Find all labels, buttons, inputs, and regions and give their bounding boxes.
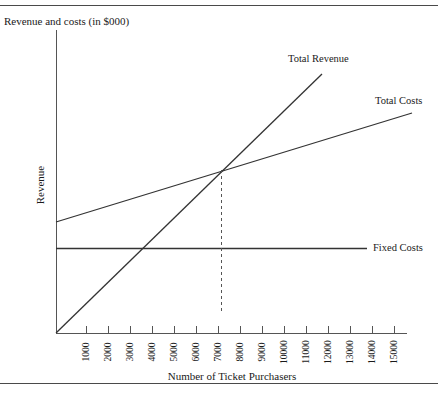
x-tick-label: 15000	[390, 340, 400, 364]
series-line-total-revenue	[56, 74, 322, 333]
x-tick-label: 9000	[258, 343, 268, 362]
x-tick-label: 10000	[280, 340, 290, 364]
x-axis-ticks	[87, 326, 395, 333]
x-tick-label: 4000	[148, 343, 158, 362]
series-label-total-revenue: Total Revenue	[288, 54, 349, 65]
x-tick-label: 8000	[236, 343, 246, 362]
x-tick-label: 14000	[368, 340, 378, 364]
plot-area	[0, 0, 438, 395]
x-tick-label: 11000	[302, 340, 312, 363]
x-tick-label: 13000	[346, 340, 356, 364]
chart-figure: Revenue and costs (in $000)	[0, 0, 438, 395]
x-tick-label: 3000	[126, 343, 136, 362]
series-line-total-costs	[56, 113, 412, 222]
series-label-total-costs: Total Costs	[375, 96, 422, 107]
x-tick-label: 5000	[170, 343, 180, 362]
x-axis-title: Number of Ticket Purchasers	[168, 371, 297, 382]
x-tick-label: 7000	[214, 343, 224, 362]
x-tick-label: 1000	[82, 343, 92, 362]
y-axis-title: Revenue	[35, 166, 46, 204]
x-tick-label: 12000	[324, 340, 334, 364]
series-label-fixed-costs: Fixed Costs	[373, 243, 423, 254]
x-tick-label: 2000	[104, 343, 114, 362]
x-tick-label: 6000	[192, 343, 202, 362]
